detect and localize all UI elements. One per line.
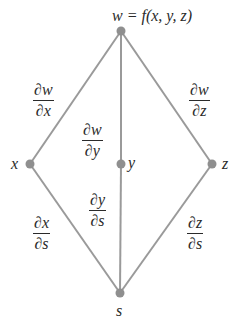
numerator: ∂w [82, 122, 103, 140]
edge-y-s [120, 164, 121, 293]
denominator: ∂y [84, 141, 101, 159]
node-label-z: z [222, 156, 228, 172]
denominator: ∂s [33, 234, 49, 252]
node-label-y: y [128, 155, 135, 171]
node-s [116, 289, 125, 298]
node-label-s: s [116, 303, 122, 319]
numerator: ∂y [89, 192, 106, 210]
numerator: ∂w [189, 82, 210, 100]
edge-label-dw-dz: ∂w ∂z [189, 82, 210, 119]
node-y [117, 160, 126, 169]
denominator: ∂s [187, 234, 203, 252]
edge-label-dz-ds: ∂z ∂s [187, 215, 203, 252]
node-x [26, 160, 35, 169]
tree-diagram [0, 0, 246, 328]
denominator: ∂s [89, 211, 105, 229]
numerator: ∂x [33, 215, 50, 233]
node-w [117, 27, 126, 36]
edge-label-dy-ds: ∂y ∂s [89, 192, 106, 229]
numerator: ∂w [33, 82, 54, 100]
edge-label-dx-ds: ∂x ∂s [33, 215, 50, 252]
node-label-w: w = f(x, y, z) [112, 8, 192, 24]
node-label-x: x [11, 156, 18, 172]
denominator: ∂z [191, 101, 207, 119]
edge-label-dw-dx: ∂w ∂x [33, 82, 54, 119]
numerator: ∂z [187, 215, 203, 233]
edge-label-dw-dy: ∂w ∂y [82, 122, 103, 159]
denominator: ∂x [35, 101, 52, 119]
node-z [208, 160, 217, 169]
